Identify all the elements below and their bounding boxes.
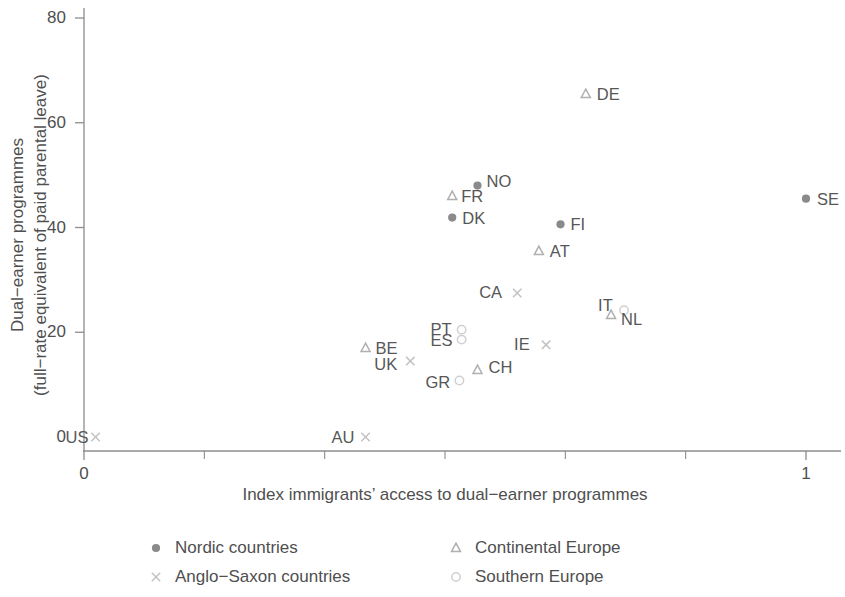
legend-marker-cross-icon-glyph <box>152 572 160 580</box>
legend-marker-cross-icon <box>150 571 162 583</box>
data-point-DK <box>448 213 456 221</box>
legend-item-southern[interactable]: Southern Europe <box>450 567 710 587</box>
data-point-PT <box>457 325 465 333</box>
legend-item-anglo-saxon[interactable]: Anglo−Saxon countries <box>150 567 450 587</box>
data-point-GR <box>455 376 463 384</box>
point-label-GR: GR <box>425 373 450 392</box>
point-label-FI: FI <box>571 215 586 234</box>
chart-legend: Nordic countries Continental Europe Angl… <box>150 533 710 591</box>
point-label-UK: UK <box>374 355 397 374</box>
series-cross <box>91 289 550 441</box>
legend-label-nordic: Nordic countries <box>175 538 298 558</box>
y-tick-label-zero: 0 <box>36 427 66 447</box>
data-point-SE <box>802 195 810 203</box>
data-point-IE <box>542 341 550 349</box>
point-label-US: US <box>66 428 89 447</box>
legend-marker-open-circle-icon-glyph <box>452 572 460 580</box>
legend-label-anglo-saxon: Anglo−Saxon countries <box>175 567 350 587</box>
legend-marker-filled-circle-icon <box>150 542 162 554</box>
point-label-CA: CA <box>479 282 502 301</box>
legend-marker-triangle-icon <box>450 542 462 554</box>
data-point-BE <box>361 343 370 351</box>
data-point-US <box>91 433 99 441</box>
data-point-CA <box>513 289 521 297</box>
scatter-plot-figure: Dual−earner programmes (full−rate equiva… <box>0 0 845 597</box>
point-label-ES: ES <box>431 330 453 349</box>
x-tick-label: 0 <box>69 464 99 484</box>
y-tick-label: 20 <box>36 322 66 342</box>
data-point-FR <box>448 191 457 199</box>
data-point-DE <box>581 89 590 97</box>
x-tick-label: 1 <box>791 464 821 484</box>
legend-marker-open-circle-icon <box>450 571 462 583</box>
point-label-NO: NO <box>486 171 511 190</box>
legend-item-nordic[interactable]: Nordic countries <box>150 538 450 558</box>
data-point-ES <box>457 335 465 343</box>
point-label-AT: AT <box>550 242 570 261</box>
data-point-FI <box>556 220 564 228</box>
point-label-AU: AU <box>332 428 355 447</box>
legend-marker-triangle-icon-glyph <box>451 543 460 551</box>
plot-area <box>0 0 845 480</box>
legend-item-continental[interactable]: Continental Europe <box>450 538 710 558</box>
point-label-NL: NL <box>621 309 642 328</box>
point-label-SE: SE <box>817 189 839 208</box>
point-label-IT: IT <box>598 296 613 315</box>
y-tick-label: 60 <box>36 113 66 133</box>
y-tick-label: 40 <box>36 218 66 238</box>
point-label-DK: DK <box>462 208 485 227</box>
legend-marker-filled-circle-icon-glyph <box>152 543 160 551</box>
point-label-FR: FR <box>461 187 483 206</box>
point-label-DE: DE <box>597 84 620 103</box>
legend-label-southern: Southern Europe <box>475 567 604 587</box>
point-label-CH: CH <box>488 357 512 376</box>
legend-label-continental: Continental Europe <box>475 538 621 558</box>
data-point-UK <box>406 357 414 365</box>
data-point-CH <box>473 365 482 373</box>
point-label-IE: IE <box>514 334 530 353</box>
x-axis-title: Index immigrants’ access to dual−earner … <box>84 485 806 505</box>
data-point-AU <box>361 433 369 441</box>
y-tick-label: 80 <box>36 8 66 28</box>
data-point-AT <box>534 246 543 254</box>
